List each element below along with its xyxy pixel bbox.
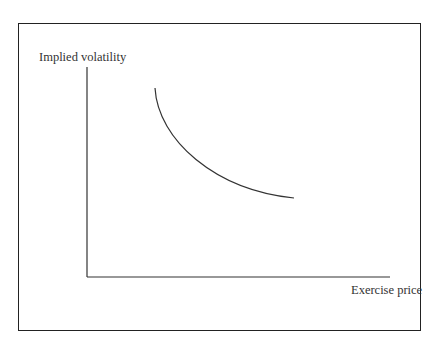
y-axis-label: Implied volatility: [39, 50, 126, 65]
volatility-skew-curve: [155, 88, 294, 198]
x-axis-label: Exercise price: [351, 283, 422, 298]
